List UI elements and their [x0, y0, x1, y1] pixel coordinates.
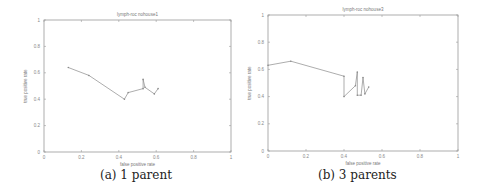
x-tick-label: 0.4	[341, 154, 348, 159]
y-tick-label: 0	[261, 149, 264, 154]
data-point	[267, 65, 269, 67]
y-tick-label: 0.8	[34, 44, 41, 49]
roc-chart-1-parent: lymph-roc nohouse100.20.40.60.8100.20.40…	[0, 0, 240, 188]
x-tick-label: 0.4	[116, 155, 123, 160]
chart-title: lymph-roc nohouse3	[343, 7, 384, 12]
x-tick-label: 1	[230, 155, 233, 160]
data-point	[124, 98, 126, 100]
data-point	[364, 93, 366, 95]
x-axis-label: false positive rate	[120, 162, 156, 167]
y-tick-label: 1	[261, 13, 264, 18]
data-point	[157, 88, 159, 90]
data-point	[362, 77, 364, 79]
y-tick-label: 0.4	[258, 94, 265, 99]
data-point	[154, 93, 156, 95]
y-tick-label: 0.2	[34, 123, 41, 128]
x-axis-label: false positive rate	[345, 161, 381, 166]
data-point	[127, 92, 129, 94]
x-tick-label: 0	[267, 154, 270, 159]
y-tick-label: 0.4	[34, 97, 41, 102]
data-point	[368, 86, 370, 88]
y-axis-label: true positive rate	[247, 66, 252, 100]
data-point	[68, 67, 70, 69]
data-point	[357, 71, 359, 73]
chart-panel-3-parents: lymph-roc nohouse300.20.40.60.8100.20.40…	[240, 0, 478, 188]
data-point	[88, 75, 90, 77]
plot-frame	[268, 15, 458, 151]
plot-frame	[44, 20, 231, 152]
y-tick-label: 0.6	[34, 70, 41, 75]
chart-panel-1-parent: lymph-roc nohouse100.20.40.60.8100.20.40…	[0, 0, 240, 188]
y-tick-label: 0.2	[258, 121, 265, 126]
x-tick-label: 0.8	[190, 155, 197, 160]
caption-1-parent: (a) 1 parent	[100, 168, 172, 182]
data-point	[355, 85, 357, 87]
x-tick-label: 0.2	[303, 154, 310, 159]
caption-3-parents: (b) 3 parents	[318, 168, 397, 182]
data-point	[343, 75, 345, 77]
chart-title: lymph-roc nohouse1	[117, 12, 158, 17]
y-tick-label: 0.6	[258, 67, 265, 72]
y-tick-label: 0	[37, 150, 40, 155]
data-point	[142, 79, 144, 81]
data-point	[142, 88, 144, 90]
x-tick-label: 0.6	[153, 155, 160, 160]
x-tick-label: 0	[43, 155, 46, 160]
roc-curve	[68, 68, 158, 100]
x-tick-label: 0.8	[417, 154, 424, 159]
y-tick-label: 1	[37, 18, 40, 23]
x-tick-label: 0.6	[379, 154, 386, 159]
data-point	[290, 60, 292, 62]
data-point	[357, 94, 359, 96]
roc-chart-3-parents: lymph-roc nohouse300.20.40.60.8100.20.40…	[240, 0, 478, 188]
roc-curve	[268, 61, 369, 96]
y-tick-label: 0.8	[258, 40, 265, 45]
y-axis-label: true positive rate	[23, 69, 28, 103]
data-point	[343, 96, 345, 98]
data-point	[360, 94, 362, 96]
x-tick-label: 1	[457, 154, 460, 159]
data-point	[144, 87, 146, 89]
x-tick-label: 0.2	[78, 155, 85, 160]
